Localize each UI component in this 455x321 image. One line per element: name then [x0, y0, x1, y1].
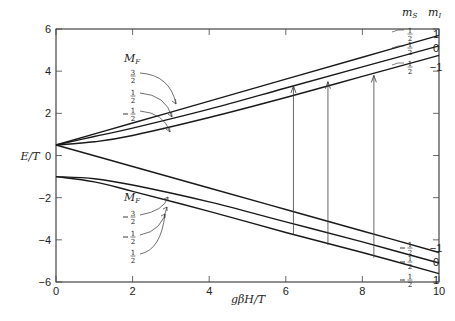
- y-tick-label: −6: [38, 276, 51, 288]
- fraction-label: 12: [408, 41, 413, 58]
- fraction-label: 12: [408, 60, 413, 77]
- energy-level-curve: [56, 46, 439, 145]
- x-tick-label: 8: [359, 285, 365, 297]
- x-tick-label: 4: [206, 285, 212, 297]
- energy-level-curve: [56, 145, 439, 253]
- fraction-label: 12: [123, 107, 136, 124]
- y-tick-label: 2: [45, 107, 51, 119]
- y-tick-label: −4: [38, 234, 51, 246]
- pointer-arrow: [392, 30, 404, 32]
- svg-text:3: 3: [131, 69, 135, 77]
- svg-text:2: 2: [408, 49, 412, 57]
- svg-text:2: 2: [131, 115, 135, 123]
- fraction-label: 12: [123, 230, 136, 247]
- fraction-label: 32: [131, 69, 136, 86]
- svg-text:1: 1: [131, 107, 135, 115]
- mi-header: mI: [428, 6, 441, 20]
- mi-value: 1: [433, 28, 439, 40]
- mi-value: 0: [433, 42, 439, 54]
- svg-text:1: 1: [408, 273, 412, 281]
- svg-text:1: 1: [408, 255, 412, 263]
- energy-level-curve: [56, 55, 439, 145]
- ms-header: mS: [402, 6, 417, 20]
- y-axis-label: E/T: [19, 150, 41, 163]
- y-tick-label: −2: [38, 192, 51, 204]
- fraction-label: 32: [123, 210, 136, 227]
- energy-level-chart: 0246810−6−4−20246 MF321212MF321212mSmI12…: [0, 0, 455, 321]
- fraction-label: 12: [400, 273, 413, 290]
- energy-curves: [56, 35, 439, 273]
- x-axis-label: gβH/T: [231, 293, 267, 306]
- svg-text:1: 1: [408, 27, 412, 35]
- svg-text:2: 2: [131, 77, 135, 85]
- svg-text:2: 2: [131, 257, 135, 265]
- svg-text:2: 2: [131, 238, 135, 246]
- transition-arrows: [291, 75, 376, 257]
- mi-value: 1: [433, 274, 439, 286]
- mf-label: MF: [123, 52, 141, 66]
- svg-text:2: 2: [131, 218, 135, 226]
- fraction-label: 12: [131, 89, 136, 106]
- svg-text:1: 1: [131, 230, 135, 238]
- svg-text:1: 1: [131, 89, 135, 97]
- x-tick-label: 2: [130, 285, 136, 297]
- energy-level-curve: [56, 35, 439, 145]
- y-tick-label: 0: [45, 150, 51, 162]
- axis-ticks: 0246810−6−4−20246: [38, 23, 445, 297]
- plot-frame: [56, 29, 439, 282]
- x-tick-label: 10: [433, 285, 445, 297]
- svg-text:1: 1: [408, 60, 412, 68]
- svg-text:1: 1: [408, 241, 412, 249]
- svg-text:2: 2: [408, 68, 412, 76]
- svg-text:1: 1: [408, 41, 412, 49]
- pointer-arrow: [140, 73, 176, 104]
- mi-value: −1: [430, 61, 443, 73]
- svg-text:2: 2: [408, 281, 412, 289]
- y-tick-label: 4: [45, 65, 51, 77]
- svg-text:2: 2: [408, 263, 412, 271]
- x-tick-label: 0: [53, 285, 59, 297]
- svg-text:2: 2: [131, 97, 135, 105]
- svg-text:1: 1: [131, 249, 135, 257]
- mi-value: −1: [430, 242, 443, 254]
- energy-level-curve: [56, 177, 439, 274]
- svg-text:3: 3: [131, 210, 135, 218]
- mi-value: 0: [433, 256, 439, 268]
- fraction-label: 12: [131, 249, 136, 266]
- energy-level-curve: [56, 177, 439, 263]
- y-tick-label: 6: [45, 23, 51, 35]
- pointer-arrow: [392, 63, 404, 65]
- x-tick-label: 6: [283, 285, 289, 297]
- plot-border: [56, 29, 439, 282]
